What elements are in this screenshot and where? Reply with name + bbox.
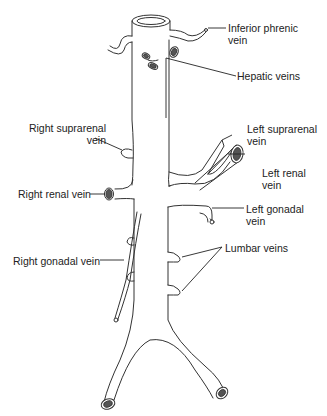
right-gonadal-vein	[114, 212, 141, 322]
label-line: Left gonadal	[246, 203, 304, 215]
label-left-gonadal-vein: Left gonadal vein	[246, 203, 304, 227]
hepatic-veins	[141, 45, 180, 70]
left-gonadal-vein	[168, 205, 214, 224]
label-right-renal-vein: Right renal vein	[18, 188, 91, 200]
label-line: Left suprarenal	[247, 123, 317, 135]
left-renal-vein	[169, 144, 244, 190]
right-suprarenal-vein	[121, 149, 133, 158]
label-left-renal-vein: Left renal vein	[262, 167, 306, 191]
label-line: Right renal vein	[18, 188, 91, 200]
label-hepatic-veins: Hepatic veins	[237, 70, 300, 82]
right-renal-vein	[105, 180, 135, 200]
left-suprarenal-vein	[169, 140, 224, 176]
label-line: vein	[262, 179, 306, 191]
label-lumbar-veins: Lumbar veins	[225, 242, 288, 254]
label-left-suprarenal-vein: Left suprarenal vein	[247, 123, 317, 147]
label-line: vein	[247, 135, 317, 147]
label-right-suprarenal-vein: Right suprarenal vein	[14, 122, 106, 146]
label-line: Hepatic veins	[237, 70, 300, 82]
lumbar-veins	[168, 252, 180, 295]
inferior-phrenic-veins	[108, 29, 208, 55]
inferior-vena-cava	[100, 15, 230, 411]
label-line: vein	[14, 134, 106, 146]
label-line: Inferior phrenic	[228, 22, 298, 34]
label-right-gonadal-vein: Right gonadal vein	[13, 255, 100, 267]
label-line: Right suprarenal	[14, 122, 106, 134]
label-line: vein	[228, 34, 298, 46]
label-line: Lumbar veins	[225, 242, 288, 254]
label-line: Left renal	[262, 167, 306, 179]
label-line: vein	[246, 215, 304, 227]
label-inferior-phrenic-vein: Inferior phrenic vein	[228, 22, 298, 46]
label-line: Right gonadal vein	[13, 255, 100, 267]
